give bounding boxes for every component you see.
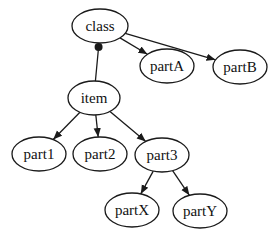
node-item: item bbox=[68, 81, 120, 115]
node-label: partA bbox=[150, 58, 184, 74]
node-label: partY bbox=[183, 203, 217, 219]
tree-diagram: classpartApartBitempart1part2part3partXp… bbox=[0, 0, 273, 235]
edge-part3-partX bbox=[141, 171, 153, 194]
node-partA: partA bbox=[140, 49, 194, 83]
node-part2: part2 bbox=[73, 137, 127, 171]
node-part1: part1 bbox=[12, 137, 66, 171]
nodes: classpartApartBitempart1part2part3partXp… bbox=[12, 9, 267, 228]
node-label: class bbox=[85, 18, 114, 34]
edge-item-part1 bbox=[53, 112, 80, 139]
node-label: partX bbox=[115, 202, 149, 218]
edge-part3-partY bbox=[173, 171, 190, 196]
dot-icon bbox=[95, 43, 103, 51]
edge-item-part2 bbox=[96, 115, 98, 137]
node-partY: partY bbox=[173, 194, 227, 228]
node-label: part1 bbox=[24, 146, 55, 162]
node-partX: partX bbox=[105, 193, 159, 227]
edge-item-part3 bbox=[110, 111, 146, 141]
node-label: part2 bbox=[85, 146, 116, 162]
node-part3: part3 bbox=[135, 138, 189, 172]
node-label: item bbox=[81, 90, 108, 106]
node-label: part3 bbox=[147, 147, 178, 163]
node-partB: partB bbox=[213, 50, 267, 84]
node-class: class bbox=[72, 9, 128, 43]
node-label: partB bbox=[223, 59, 256, 75]
edge-class-item bbox=[95, 43, 103, 81]
edge-class-partA bbox=[120, 38, 147, 54]
